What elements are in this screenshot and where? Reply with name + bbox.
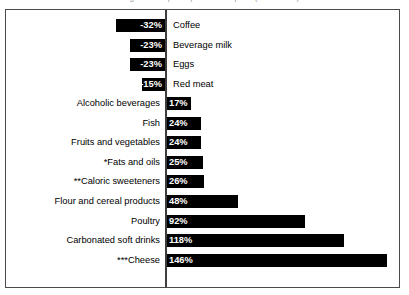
chart-plot-area: Coffee-32%Beverage milk-23%Eggs-23%Red m… <box>5 9 400 288</box>
bar-category-label: *Fats and oils <box>104 155 163 170</box>
chart-title: Change in U.S. per capita consumption (1… <box>0 0 409 2</box>
bar-value-label: 17% <box>169 97 188 110</box>
bar-category-label: **Caloric sweeteners <box>74 174 163 189</box>
bar-value-label: -23% <box>140 39 162 52</box>
bar: -32% <box>116 19 165 32</box>
bar-value-label: 25% <box>169 156 188 169</box>
table-row: ***Cheese146% <box>6 254 399 267</box>
bar: 146% <box>165 254 387 267</box>
table-row: Coffee-32% <box>6 19 399 32</box>
bar-value-label: 118% <box>169 234 192 247</box>
bar-category-label: Fish <box>142 116 163 131</box>
bar-category-label: ***Cheese <box>117 253 163 268</box>
bar-value-label: 24% <box>169 136 188 149</box>
bar-value-label: -32% <box>140 19 162 32</box>
bar-category-label: Beverage milk <box>169 38 232 53</box>
bar: 48% <box>165 195 238 208</box>
table-row: Poultry92% <box>6 215 399 228</box>
bar: -23% <box>130 39 165 52</box>
bar-value-label: 146% <box>169 254 193 267</box>
table-row: Carbonated soft drinks118% <box>6 234 399 247</box>
bar-category-label: Carbonated soft drinks <box>66 233 163 248</box>
bar-category-label: Fruits and vegetables <box>71 135 163 150</box>
bar-value-label: -23% <box>140 58 162 71</box>
table-row: **Caloric sweeteners26% <box>6 175 399 188</box>
table-row: Red meat-15% <box>6 78 399 91</box>
bar: 26% <box>165 175 204 188</box>
table-row: Fruits and vegetables24% <box>6 136 399 149</box>
table-row: Beverage milk-23% <box>6 39 399 52</box>
table-row: Eggs-23% <box>6 58 399 71</box>
bar-category-label: Poultry <box>131 214 163 229</box>
bar: 24% <box>165 136 201 149</box>
bar: 118% <box>165 234 344 247</box>
table-row: Alcoholic beverages17% <box>6 97 399 110</box>
bar-category-label: Coffee <box>169 18 200 33</box>
table-row: Flour and cereal products48% <box>6 195 399 208</box>
bar-value-label: 92% <box>169 215 188 228</box>
bar: -23% <box>130 58 165 71</box>
bar-value-label: 26% <box>169 175 188 188</box>
bar-category-label: Alcoholic beverages <box>77 96 163 111</box>
bar: 24% <box>165 117 201 130</box>
table-row: *Fats and oils25% <box>6 156 399 169</box>
bar: -15% <box>142 78 165 91</box>
bar-category-label: Red meat <box>169 77 213 92</box>
bar-rows: Coffee-32%Beverage milk-23%Eggs-23%Red m… <box>6 10 399 287</box>
bar-value-label: 48% <box>169 195 188 208</box>
bar-category-label: Eggs <box>169 57 194 72</box>
bar-value-label: 24% <box>169 117 188 130</box>
zero-axis-line <box>165 10 167 287</box>
bar: 92% <box>165 215 305 228</box>
bar: 25% <box>165 156 203 169</box>
bar: 17% <box>165 97 191 110</box>
bar-value-label: -15% <box>140 78 162 91</box>
table-row: Fish24% <box>6 117 399 130</box>
bar-category-label: Flour and cereal products <box>55 194 163 209</box>
